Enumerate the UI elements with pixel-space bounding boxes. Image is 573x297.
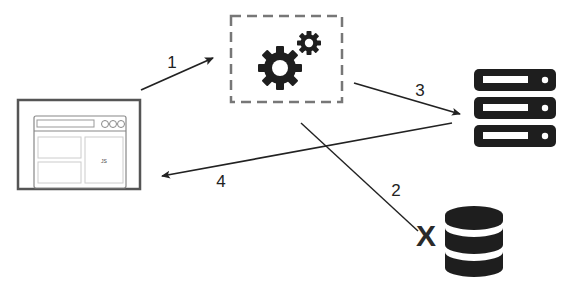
edge-label-2: 2 bbox=[391, 181, 400, 200]
edge-1: 1 bbox=[141, 53, 213, 90]
browser-node: JS bbox=[18, 100, 140, 189]
server-node bbox=[474, 69, 556, 147]
server-stack-icon bbox=[474, 69, 556, 147]
failure-x-icon: X bbox=[416, 219, 436, 252]
database-icon bbox=[445, 206, 503, 277]
flow-diagram: JS bbox=[0, 0, 573, 297]
processor-node bbox=[231, 16, 342, 102]
edge-label-3: 3 bbox=[415, 81, 424, 100]
database-node: X bbox=[416, 206, 503, 277]
edge-4: 4 bbox=[162, 123, 452, 191]
js-label: JS bbox=[101, 158, 108, 164]
edge-label-1: 1 bbox=[167, 53, 176, 72]
edge-label-4: 4 bbox=[216, 172, 225, 191]
edge-3: 3 bbox=[354, 81, 460, 114]
browser-window-icon: JS bbox=[34, 116, 126, 188]
gears-icon bbox=[258, 31, 321, 90]
